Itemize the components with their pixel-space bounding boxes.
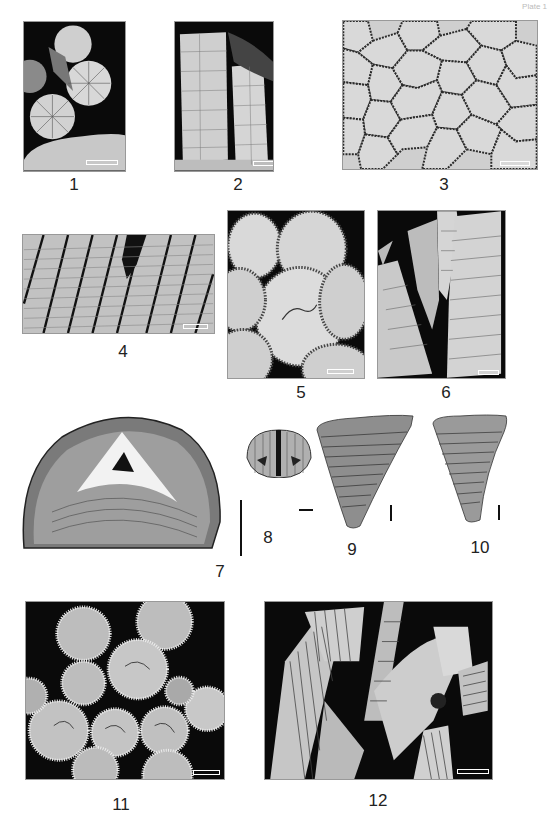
figure-panel-7 [22, 412, 222, 549]
figure-panel-2 [174, 21, 274, 172]
scale-bar [183, 324, 208, 329]
scale-bar [457, 769, 489, 774]
semicircular-section-image [22, 412, 222, 549]
panel-label-5: 5 [286, 383, 316, 403]
panel-label-2: 2 [223, 175, 253, 195]
coral-longitudinal-image [175, 22, 273, 171]
panel-label-6: 6 [431, 383, 461, 403]
scale-bar [240, 500, 242, 556]
panel-label-12: 12 [363, 791, 393, 811]
figure-panel-5 [227, 210, 365, 379]
figure-panel-3 [342, 20, 538, 170]
triangular-specimen-image [430, 412, 508, 524]
scale-bar [500, 161, 530, 166]
figure-panel-10 [430, 412, 508, 524]
scale-bar [299, 509, 313, 511]
triangular-specimen-image [315, 412, 417, 530]
cerioid-colony-image [343, 21, 537, 169]
scale-bar [390, 505, 392, 521]
panel-label-7: 7 [205, 562, 235, 582]
panel-label-4: 4 [108, 342, 138, 362]
scale-bar [193, 770, 220, 775]
figure-panel-6 [377, 210, 506, 379]
scale-bar [498, 505, 500, 520]
coral-transverse-image [24, 22, 125, 171]
scale-bar [253, 161, 274, 166]
coral-transverse-image [228, 211, 364, 378]
panel-label-8: 8 [253, 528, 283, 548]
figure-panel-12 [264, 601, 493, 780]
panel-label-9: 9 [337, 540, 367, 560]
scale-bar [478, 370, 499, 375]
coral-longitudinal-image [23, 235, 214, 333]
figure-panel-11 [25, 601, 225, 780]
panel-label-1: 1 [59, 175, 89, 195]
scale-bar [327, 369, 354, 374]
figure-panel-4 [22, 234, 215, 334]
panel-label-3: 3 [429, 175, 459, 195]
panel-label-10: 10 [465, 538, 495, 558]
figure-panel-1 [23, 21, 126, 172]
coral-longitudinal-image [378, 211, 505, 378]
figure-panel-8 [245, 428, 313, 478]
plate-corner-mark: Plate 1 [522, 2, 547, 11]
scale-bar [86, 160, 118, 165]
figure-panel-9 [315, 412, 417, 530]
semicircular-section-image [245, 428, 313, 478]
coral-longitudinal-image [265, 602, 492, 779]
coral-transverse-image [26, 602, 224, 779]
panel-label-11: 11 [106, 795, 136, 815]
